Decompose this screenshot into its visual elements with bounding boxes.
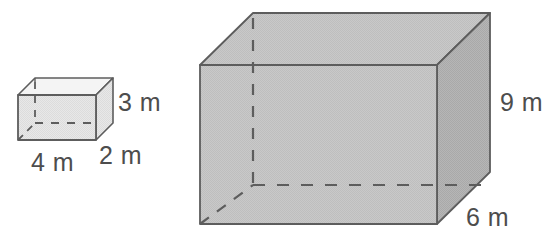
small-prism-height-label: 3 m <box>118 90 161 115</box>
small-prism-depth-label: 2 m <box>99 143 142 168</box>
large-prism-depth-label: 6 m <box>466 205 509 230</box>
large-prism-height-label: 9 m <box>500 90 543 115</box>
figure-canvas: 3 m 4 m 2 m 9 m 6 m <box>0 0 555 235</box>
small-prism-front-face <box>18 95 96 140</box>
small-rectangular-prism <box>18 78 113 140</box>
large-prism-front-face <box>200 65 437 224</box>
prisms-vector-drawing <box>0 0 555 235</box>
small-prism-width-label: 4 m <box>31 150 74 175</box>
large-rectangular-prism <box>200 13 490 224</box>
